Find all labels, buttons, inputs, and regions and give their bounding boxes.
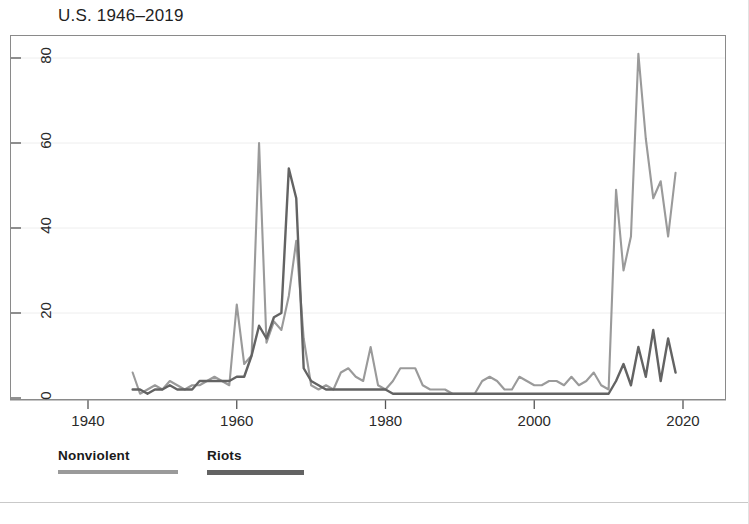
data-series-group: [133, 54, 676, 394]
x-tick-1980: 1980: [356, 412, 416, 429]
x-tick-2000: 2000: [504, 412, 564, 429]
legend-label-nonviolent: Nonviolent: [58, 448, 178, 463]
legend-label-riots: Riots: [207, 448, 304, 463]
legend-entry-nonviolent[interactable]: Nonviolent: [58, 448, 178, 474]
y-tick-60: 60: [37, 124, 54, 158]
legend-divider: [0, 502, 749, 503]
y-tick-80: 80: [37, 39, 54, 73]
chart-figure: U.S. 1946–2019 020406080 194019601980200…: [0, 0, 749, 524]
legend-swatch-nonviolent: [58, 470, 178, 474]
y-tick-20: 20: [37, 294, 54, 328]
series-line-riots: [133, 169, 676, 394]
x-tick-1940: 1940: [58, 412, 118, 429]
y-tick-0: 0: [37, 379, 54, 413]
chart-legend: Nonviolent Riots: [0, 440, 749, 510]
legend-entry-riots[interactable]: Riots: [207, 448, 304, 475]
series-line-nonviolent: [133, 54, 676, 394]
y-tick-40: 40: [37, 209, 54, 243]
legend-swatch-riots: [207, 470, 304, 475]
x-tick-1960: 1960: [207, 412, 267, 429]
x-tick-2020: 2020: [653, 412, 713, 429]
gridlines-group: [11, 58, 725, 313]
